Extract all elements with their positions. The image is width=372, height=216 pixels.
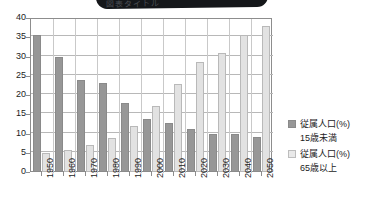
y-axis-label: 10	[0, 129, 26, 138]
x-axis-label-2000: 2000	[155, 158, 165, 178]
x-axis-tick	[217, 172, 218, 176]
x-axis-tick	[85, 172, 86, 176]
legend-sublabel: 15歳未満	[300, 132, 372, 145]
legend-sublabel: 65歳以上	[300, 162, 372, 175]
bar-2050-series2	[262, 26, 270, 172]
y-axis-label: 40	[0, 13, 26, 22]
bar-2050-series1	[253, 137, 261, 172]
x-axis-label-1980: 1980	[111, 158, 121, 178]
x-axis-label-2020: 2020	[199, 158, 209, 178]
bar-chart: 0510152025303540 19501960197019801990200…	[0, 0, 372, 216]
x-axis-tick	[129, 172, 130, 176]
y-axis-tick	[26, 172, 30, 173]
y-axis-label: 5	[0, 148, 26, 157]
chart-legend: 従属人口(%)15歳未満従属人口(%)65歳以上	[288, 118, 372, 178]
bar-2030-series2	[218, 53, 226, 172]
bar-1960-series1	[55, 57, 63, 172]
bar-2030-series1	[209, 134, 217, 172]
x-axis-tick	[239, 172, 240, 176]
y-axis-label: 35	[0, 32, 26, 41]
x-axis-label-1970: 1970	[89, 158, 99, 178]
x-axis-label-1990: 1990	[133, 158, 143, 178]
x-axis-tick	[41, 172, 42, 176]
bar-2040-series1	[231, 134, 239, 172]
x-axis-label-2040: 2040	[243, 158, 253, 178]
bar-1990-series1	[121, 103, 129, 172]
x-axis-tick	[63, 172, 64, 176]
bar-2020-series1	[187, 129, 195, 172]
x-axis-tick	[195, 172, 196, 176]
bar-2010-series1	[165, 123, 173, 172]
y-axis-label: 20	[0, 90, 26, 99]
legend-label: 従属人口(%)	[300, 148, 350, 161]
x-axis-label-2030: 2030	[221, 158, 231, 178]
y-axis-label: 25	[0, 71, 26, 80]
y-axis-label: 0	[0, 167, 26, 176]
legend-swatch-icon	[288, 150, 296, 158]
bar-2000-series1	[143, 119, 151, 172]
bar-2040-series2	[240, 35, 248, 172]
bar-1970-series1	[77, 80, 85, 172]
x-axis-tick	[261, 172, 262, 176]
legend-item: 従属人口(%)	[288, 118, 372, 131]
x-axis-tick	[173, 172, 174, 176]
legend-label: 従属人口(%)	[300, 118, 350, 131]
y-axis-label: 30	[0, 52, 26, 61]
y-axis-label: 15	[0, 109, 26, 118]
x-axis-label-1960: 1960	[67, 158, 77, 178]
bar-1950-series1	[33, 35, 41, 172]
bar-2020-series2	[196, 62, 204, 172]
x-axis-label-2010: 2010	[177, 158, 187, 178]
legend-item: 従属人口(%)	[288, 148, 372, 161]
bar-series-container	[30, 18, 272, 172]
x-axis-label-1950: 1950	[45, 158, 55, 178]
x-axis-tick	[151, 172, 152, 176]
x-axis-label-2050: 2050	[265, 158, 275, 178]
x-axis-tick	[107, 172, 108, 176]
bar-1980-series1	[99, 83, 107, 172]
legend-swatch-icon	[288, 120, 296, 128]
